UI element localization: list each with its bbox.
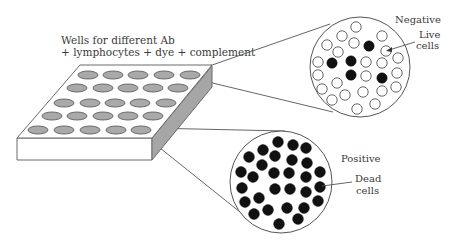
- well-r2-c1: [67, 84, 87, 92]
- dead-cell: [284, 168, 295, 179]
- live-cell: [340, 90, 350, 100]
- live-cell: [327, 95, 337, 105]
- live-cell: [349, 38, 359, 48]
- live-cell: [313, 57, 323, 67]
- wells-label-line2: + lymphocytes + dye + complement: [61, 46, 256, 58]
- well-r5-c3: [80, 126, 100, 134]
- well-r1-c3: [128, 71, 148, 79]
- positive-label: Positive: [341, 153, 381, 164]
- dead-cell: [301, 172, 312, 183]
- live-cell: [377, 31, 387, 41]
- positive-well-view: [230, 131, 332, 233]
- well-r4-c4: [118, 112, 138, 120]
- dead-cell: [254, 193, 265, 204]
- live-cell: [392, 68, 402, 78]
- dead-cell: [273, 137, 284, 148]
- dead-cell: [315, 182, 326, 193]
- well-r5-c2: [54, 126, 74, 134]
- well-r3-c4: [130, 99, 150, 107]
- dead-cell: [237, 183, 248, 194]
- live-cell: [358, 87, 368, 97]
- well-r2-c4: [143, 84, 163, 92]
- live-cells-label-line2: cells: [416, 40, 439, 51]
- dead-cell: [293, 214, 304, 225]
- dead-cell: [248, 172, 259, 183]
- dead-cell: [236, 167, 247, 178]
- dead-cell: [249, 209, 260, 220]
- dead-cell: [301, 187, 312, 198]
- well-r1-c4: [154, 71, 174, 79]
- well-r1-c5: [180, 71, 200, 79]
- live-cell: [322, 40, 332, 50]
- well-r3-c2: [80, 99, 100, 107]
- dead-cell: [244, 152, 255, 163]
- live-cell: [313, 70, 323, 80]
- well-r4-c2: [67, 112, 87, 120]
- dead-cell: [270, 151, 281, 162]
- dead-cell: [301, 143, 312, 154]
- well-r1-c2: [103, 71, 123, 79]
- live-cell: [361, 71, 371, 81]
- dead-cell: [327, 58, 337, 68]
- well-r5-c1: [28, 126, 48, 134]
- dead-cell: [285, 184, 296, 195]
- negative-magnified-circle: [310, 17, 410, 117]
- live-cells-label-line1: Live: [419, 29, 440, 40]
- dead-cell: [257, 160, 268, 171]
- wells-label-line1: Wells for different Ab: [61, 34, 175, 46]
- well-r3-c1: [54, 99, 74, 107]
- cytotoxicity-assay-diagram: Wells for different Ab + lymphocytes + d…: [0, 0, 453, 240]
- well-r5-c5: [131, 126, 151, 134]
- dead-cell: [263, 205, 274, 216]
- well-r1-c1: [78, 71, 98, 79]
- live-cell: [391, 82, 401, 92]
- live-cell: [337, 31, 347, 41]
- well-r4-c5: [143, 112, 163, 120]
- live-cell: [361, 57, 371, 67]
- live-cell: [332, 78, 342, 88]
- well-r3-c3: [105, 99, 125, 107]
- live-cell: [377, 86, 387, 96]
- dead-cell: [364, 41, 374, 51]
- well-r4-c1: [42, 112, 62, 120]
- well-r3-c5: [156, 99, 176, 107]
- live-cell: [351, 22, 361, 32]
- well-r4-c3: [93, 112, 113, 120]
- dead-cell: [377, 73, 387, 83]
- dead-cell: [240, 197, 251, 208]
- well-r2-c2: [93, 84, 113, 92]
- live-cell: [317, 84, 327, 94]
- live-cell: [352, 104, 362, 114]
- well-r2-c5: [168, 84, 188, 92]
- dead-cell: [299, 203, 310, 214]
- dead-cell: [288, 140, 299, 151]
- negative-well-view: [310, 17, 410, 117]
- dead-cell: [287, 155, 298, 166]
- live-cell: [333, 47, 343, 57]
- diagram-canvas: Wells for different Ab + lymphocytes + d…: [0, 0, 453, 240]
- dead-cell: [346, 70, 356, 80]
- negative-label: Negative: [395, 14, 441, 25]
- dead-cell: [270, 184, 281, 195]
- dead-cells-label-line1: Dead: [355, 173, 382, 184]
- dead-cell: [274, 219, 285, 230]
- dead-cell: [282, 203, 293, 214]
- dead-cell: [313, 196, 324, 207]
- plate-front-face: [17, 138, 152, 160]
- dead-cell: [258, 145, 269, 156]
- dead-cell: [269, 168, 280, 179]
- live-cell: [370, 99, 380, 109]
- dead-cell: [315, 167, 326, 178]
- well-r5-c4: [106, 126, 126, 134]
- dead-cells-label-line2: cells: [356, 185, 379, 196]
- live-cell: [393, 53, 403, 63]
- microtiter-plate: [17, 65, 212, 160]
- well-r2-c3: [118, 84, 138, 92]
- dead-cell: [302, 158, 313, 169]
- live-cell: [377, 58, 387, 68]
- dead-cell: [346, 56, 356, 66]
